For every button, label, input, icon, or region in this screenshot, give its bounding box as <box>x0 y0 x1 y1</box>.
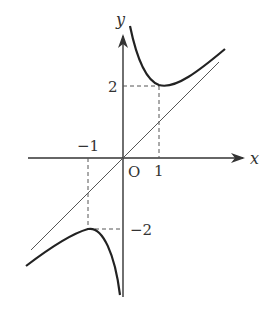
tick-x-neg1: −1 <box>77 137 99 155</box>
origin-label: O <box>128 163 140 181</box>
x-axis-label: x <box>250 149 259 168</box>
tick-y-neg2: −2 <box>130 221 152 239</box>
curve-positive-branch <box>130 26 225 86</box>
asymptote-line <box>31 62 219 250</box>
function-graph: y x O 1 −1 2 −2 <box>0 0 276 318</box>
curve-negative-branch <box>26 229 120 295</box>
tick-x-1: 1 <box>154 162 164 180</box>
y-axis-label: y <box>115 10 126 29</box>
tick-y-2: 2 <box>108 78 118 96</box>
